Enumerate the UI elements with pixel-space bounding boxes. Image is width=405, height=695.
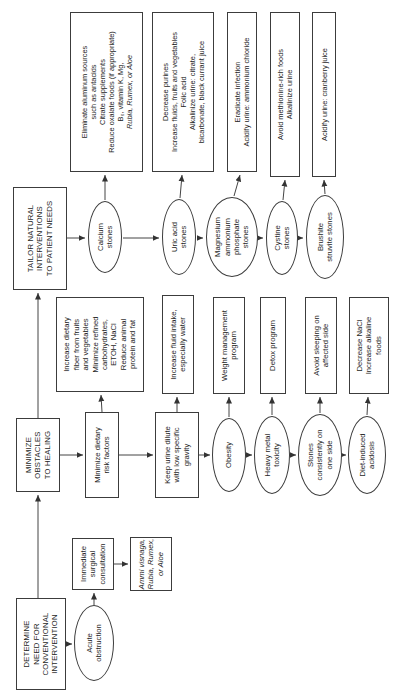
node-text-line: Detox program bbox=[268, 320, 277, 371]
node-text-line: Reduce animal bbox=[119, 319, 128, 370]
node-text-line: stones bbox=[282, 227, 291, 250]
node-text-line: TAILOR NATURAL bbox=[26, 205, 35, 272]
arrow bbox=[234, 175, 240, 196]
ammi-visnaga-box: Ammi visnaga,Rubia, Rumex,or Aloe bbox=[130, 537, 172, 591]
node-text-line: Avoid methionine-rich foods bbox=[276, 49, 285, 140]
brushite-struvite-stones-ellipse: Brushitestruvite stones bbox=[306, 195, 344, 279]
node-text-line: Weight management bbox=[220, 310, 229, 381]
minimize-dietary-risk-box: Minimize dietaryrisk factors bbox=[85, 412, 119, 498]
node-text-line: TO HEALING bbox=[43, 431, 52, 479]
node-text-line: protein and fat bbox=[128, 320, 137, 369]
weight-management-box: Weight managementprogram bbox=[213, 297, 245, 394]
node-text-line: one side bbox=[325, 440, 334, 469]
detox-program-box: Detox program bbox=[260, 297, 286, 394]
heavy-metal-toxicity-ellipse: Heavy metaltoxicity bbox=[254, 416, 290, 494]
immediate-surgical-box: Immediatesurgicalconsultation bbox=[72, 538, 114, 590]
increase-fiber-box: Increase dietaryfiber from fruitsand veg… bbox=[56, 297, 144, 392]
node-text-line: and vegetables bbox=[81, 318, 90, 370]
phase-determine-box: DETERMINENEED FORCONVENTIONALINTERVENTIO… bbox=[16, 598, 66, 690]
node-text-line: OBSTACLES bbox=[33, 431, 42, 478]
node-text-line: carbohydrates, bbox=[100, 319, 109, 370]
node-text-line: Alkalinize urine bbox=[285, 70, 294, 120]
node-text-line: foods bbox=[374, 336, 383, 355]
node-text-line: Alkalinize urine: citrate, bbox=[188, 54, 197, 130]
node-text-line: struvite stones bbox=[325, 212, 334, 262]
node-text-line: Reduce oxalate foods (if appropriate) bbox=[107, 31, 116, 153]
node-text-line: Keep urine dilute bbox=[163, 426, 172, 484]
node-text-line: Acidify urine: ammonium chloride bbox=[242, 38, 251, 147]
node-text-line: Eliminate aluminum sources bbox=[80, 46, 89, 138]
node-text-line: NEED FOR bbox=[32, 623, 41, 664]
node-text-line: Calcium bbox=[96, 223, 105, 251]
node-text-line: acidosis bbox=[367, 441, 376, 469]
avoid-sleeping-box: Avoid sleeping onaffected side bbox=[305, 297, 337, 394]
node-text-line: phosphate bbox=[232, 219, 241, 255]
node-text-line: or Aloe bbox=[156, 552, 165, 576]
node-text-line: Magnesium bbox=[213, 217, 222, 257]
node-text-line: CONVENTIONAL bbox=[41, 612, 50, 675]
flowchart-stage: DETERMINENEED FORCONVENTIONALINTERVENTIO… bbox=[0, 0, 405, 695]
uric-acid-stones-ellipse: Uric acidstones bbox=[162, 199, 196, 275]
node-text-line: Minimize refined bbox=[91, 317, 100, 373]
node-text-line: toxicity bbox=[272, 443, 281, 467]
node-text-line: risk factors bbox=[102, 436, 111, 473]
node-text-line: Decrease NaCl bbox=[355, 319, 364, 371]
node-text-line: stones bbox=[241, 226, 250, 249]
avoid-methionine-box: Avoid methionine-rich foodsAlkalinize ur… bbox=[270, 12, 300, 177]
node-text-line: consultation bbox=[98, 543, 107, 584]
node-text-line: Decrease purines bbox=[161, 63, 170, 121]
node-text-line: obstruction bbox=[94, 624, 103, 662]
keep-urine-dilute-box: Keep urine dilutewith low specificgravit… bbox=[155, 412, 199, 498]
arrow bbox=[180, 175, 182, 198]
diet-induced-acidosis-ellipse: Diet-inducedacidosis bbox=[348, 416, 386, 494]
node-text-line: Acidify urine: cranberry juice bbox=[320, 48, 329, 141]
acute-obstruction-ellipse: Acuteobstruction bbox=[74, 605, 114, 681]
node-text-line: DETERMINE bbox=[22, 620, 31, 667]
node-text-line: Citrate supplements bbox=[98, 59, 107, 125]
flowchart-figure: DETERMINENEED FORCONVENTIONALINTERVENTIO… bbox=[0, 0, 405, 695]
node-text-line: Cystine bbox=[273, 225, 282, 251]
node-text-line: Heavy metal bbox=[263, 434, 272, 477]
node-text-line: Brushite bbox=[316, 223, 325, 251]
node-text-line: Folic acid bbox=[179, 76, 188, 107]
decrease-purines-box: Decrease purinesIncrease fluids, fruits … bbox=[152, 12, 214, 172]
node-text-line: Stones bbox=[306, 443, 315, 467]
cystine-stones-ellipse: Cystinestones bbox=[266, 201, 298, 275]
node-text-line: Diet-induced bbox=[358, 433, 367, 476]
node-text-line: Increase alkaline bbox=[364, 317, 373, 375]
node-text-line: Increase fluids, fruits and vegetables bbox=[170, 32, 179, 152]
node-text-line: TO PATIENT NEEDS bbox=[45, 201, 54, 277]
magnesium-phosphate-stones-ellipse: Magnesiumammoniumphosphatestones bbox=[206, 197, 258, 277]
obesity-ellipse: Obesity bbox=[212, 418, 246, 492]
node-text-line: surgical bbox=[88, 551, 97, 578]
arrow bbox=[283, 180, 285, 200]
arrow bbox=[324, 180, 325, 194]
node-text-line: ammonium bbox=[223, 218, 232, 256]
node-text-line: bicarbonate, black currant juice bbox=[197, 41, 206, 143]
increase-fluid-box: Increase fluid intake,especially water bbox=[162, 295, 194, 394]
node-text-line: stones bbox=[179, 226, 188, 249]
stones-one-side-ellipse: Stonesconsistently onone side bbox=[298, 414, 342, 496]
node-text-line: Obesity bbox=[224, 442, 233, 468]
node-text-line: fiber from fruits bbox=[72, 319, 81, 370]
node-text-line: Rubia, Rumex, or Aloe bbox=[125, 55, 134, 129]
arrow bbox=[101, 395, 102, 412]
node-text-line: INTERVENTIONS bbox=[35, 206, 44, 271]
calcium-stones-ellipse: Calciumstones bbox=[88, 201, 122, 273]
phase-tailor-box: TAILOR NATURALINTERVENTIONSTO PATIENT NE… bbox=[13, 187, 67, 290]
node-text-line: Increase dietary bbox=[62, 317, 71, 372]
node-text-line: with low specific bbox=[172, 427, 181, 482]
node-text-line: MINIMIZE bbox=[24, 437, 33, 473]
node-text-line: Minimize dietary bbox=[93, 427, 102, 483]
decrease-nacl-box: Decrease NaClIncrease alkalinefoods bbox=[349, 297, 389, 394]
node-text-line: Avoid sleeping on bbox=[312, 315, 321, 376]
node-text-line: Eradicate infection bbox=[233, 62, 242, 123]
eliminate-aluminum-box: Eliminate aluminum sourcessuch as antaci… bbox=[70, 12, 143, 172]
eradicate-infection-box: Eradicate infectionAcidify urine: ammoni… bbox=[227, 12, 257, 172]
acidify-cranberry-box: Acidify urine: cranberry juice bbox=[312, 12, 336, 177]
node-text-line: gravity bbox=[182, 444, 191, 467]
node-text-line: Uric acid bbox=[170, 222, 179, 252]
phase-minimize-box: MINIMIZEOBSTACLESTO HEALING bbox=[16, 418, 60, 492]
node-text-line: INTERVENTION bbox=[50, 614, 59, 674]
node-text-line: B₆, vitamin K, Mg, bbox=[116, 63, 125, 122]
